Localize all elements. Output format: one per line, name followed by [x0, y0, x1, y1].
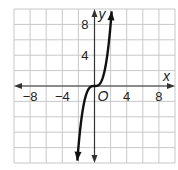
tick-labels: −8−44848	[23, 17, 163, 104]
graph: −8−44848 x y O	[0, 0, 178, 170]
y-tick-label: 4	[81, 48, 88, 63]
x-tick-label: −8	[23, 89, 38, 104]
y-axis-label: y	[98, 6, 107, 22]
origin-label: O	[98, 88, 109, 104]
x-tick-label: 4	[123, 89, 130, 104]
x-tick-label: 8	[155, 89, 162, 104]
x-axis-label: x	[162, 68, 171, 84]
y-tick-label: 8	[81, 17, 88, 32]
x-tick-label: −4	[55, 89, 70, 104]
